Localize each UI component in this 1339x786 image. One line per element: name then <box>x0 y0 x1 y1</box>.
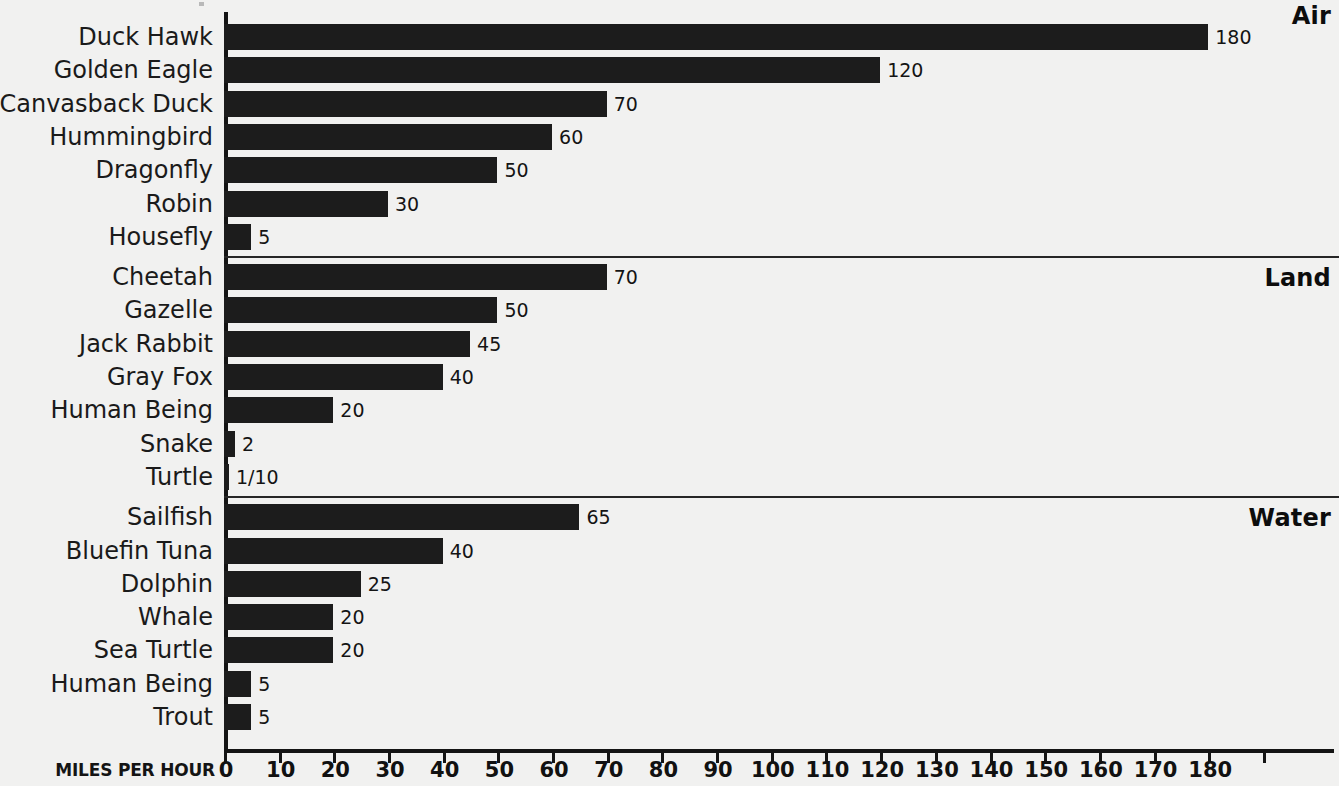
x-axis-tick-label: 100 <box>751 758 795 782</box>
bar-row[interactable]: Hummingbird60 <box>224 122 1339 155</box>
category-label: Whale <box>138 604 213 630</box>
bar[interactable] <box>224 538 443 564</box>
bar-row[interactable]: Turtle1/10 <box>224 462 1339 495</box>
bar[interactable] <box>224 331 470 357</box>
bar-value-label: 2 <box>242 431 254 457</box>
bar[interactable] <box>224 504 579 530</box>
x-axis-caption: MILES PER HOUR <box>55 760 215 780</box>
bar-row[interactable]: Human Being20 <box>224 395 1339 428</box>
category-label: Dragonfly <box>95 157 213 183</box>
bar-value-label: 60 <box>559 124 583 150</box>
category-label: Human Being <box>50 397 213 423</box>
category-label: Turtle <box>146 464 213 490</box>
x-axis-tick-label: 70 <box>594 758 623 782</box>
bar[interactable] <box>224 191 388 217</box>
bar[interactable] <box>224 604 333 630</box>
category-label: Human Being <box>50 671 213 697</box>
bar-value-label: 50 <box>504 157 528 183</box>
bar-row[interactable]: Housefly5 <box>224 222 1339 255</box>
bar-row[interactable]: Dragonfly50 <box>224 155 1339 188</box>
bar-value-label: 5 <box>258 224 270 250</box>
animal-speed-bar-chart: AirDuck Hawk180Golden Eagle120Canvasback… <box>0 0 1339 786</box>
bar[interactable] <box>224 297 497 323</box>
category-label: Bluefin Tuna <box>66 538 213 564</box>
bar-row[interactable]: Cheetah70 <box>224 262 1339 295</box>
bar-value-label: 5 <box>258 671 270 697</box>
bar-row[interactable]: Whale20 <box>224 602 1339 635</box>
bar-row[interactable]: Sea Turtle20 <box>224 635 1339 668</box>
bar[interactable] <box>224 24 1208 50</box>
x-axis-tick-label: 10 <box>266 758 295 782</box>
bar-row[interactable]: Sailfish65 <box>224 502 1339 535</box>
category-label: Sea Turtle <box>94 637 213 663</box>
category-label: Gray Fox <box>107 364 213 390</box>
bar-value-label: 25 <box>368 571 392 597</box>
x-axis-tick-label: 40 <box>430 758 459 782</box>
x-axis-tick-label: 30 <box>375 758 404 782</box>
bar-value-label: 20 <box>340 397 364 423</box>
x-axis-tick-label: 20 <box>321 758 350 782</box>
x-axis-tick-label: 110 <box>806 758 850 782</box>
bar[interactable] <box>224 91 607 117</box>
bar-value-label: 40 <box>450 364 474 390</box>
bar[interactable] <box>224 431 235 457</box>
bar-value-label: 20 <box>340 604 364 630</box>
paper-speck <box>199 2 204 6</box>
x-axis-tick-label: 130 <box>915 758 959 782</box>
bar-value-label: 5 <box>258 704 270 730</box>
bar[interactable] <box>224 704 251 730</box>
bar-row[interactable]: Dolphin25 <box>224 569 1339 602</box>
bar[interactable] <box>224 671 251 697</box>
bar[interactable] <box>224 124 552 150</box>
bar-row[interactable]: Canvasback Duck70 <box>224 89 1339 122</box>
bar-row[interactable]: Jack Rabbit45 <box>224 329 1339 362</box>
bar[interactable] <box>224 157 497 183</box>
category-label: Dolphin <box>121 571 213 597</box>
bar[interactable] <box>224 464 229 490</box>
bar-row[interactable]: Bluefin Tuna40 <box>224 536 1339 569</box>
category-label: Duck Hawk <box>78 24 213 50</box>
bar-value-label: 45 <box>477 331 501 357</box>
x-axis-tick-label: 90 <box>703 758 732 782</box>
bar[interactable] <box>224 397 333 423</box>
x-axis-tick-label: 180 <box>1188 758 1232 782</box>
bar-value-label: 70 <box>614 264 638 290</box>
bar-value-label: 1/10 <box>236 464 279 490</box>
bar[interactable] <box>224 364 443 390</box>
bar-value-label: 65 <box>586 504 610 530</box>
bar[interactable] <box>224 224 251 250</box>
category-label: Snake <box>140 431 213 457</box>
group-separator-rule <box>224 496 1339 498</box>
bar-row[interactable]: Trout5 <box>224 702 1339 735</box>
x-axis-tick-label: 120 <box>860 758 904 782</box>
category-label: Trout <box>153 704 213 730</box>
x-axis-tick-label: 160 <box>1079 758 1123 782</box>
plot-area: AirDuck Hawk180Golden Eagle120Canvasback… <box>224 12 1339 752</box>
category-label: Housefly <box>108 224 213 250</box>
bar-row[interactable]: Human Being5 <box>224 669 1339 702</box>
x-axis-tick-label: 50 <box>485 758 514 782</box>
x-axis-tick-label: 80 <box>649 758 678 782</box>
x-axis-tick-label: 60 <box>539 758 568 782</box>
bar-value-label: 20 <box>340 637 364 663</box>
group-separator-rule <box>224 256 1339 258</box>
bar[interactable] <box>224 57 880 83</box>
bar-row[interactable]: Robin30 <box>224 189 1339 222</box>
x-axis-tick-label: 150 <box>1024 758 1068 782</box>
bar[interactable] <box>224 264 607 290</box>
category-label: Sailfish <box>127 504 213 530</box>
bar-value-label: 120 <box>887 57 923 83</box>
x-axis-tick-label: 0 <box>219 758 234 782</box>
bar-row[interactable]: Golden Eagle120 <box>224 55 1339 88</box>
bar-row[interactable]: Duck Hawk180 <box>224 22 1339 55</box>
x-axis-tick-label: 140 <box>970 758 1014 782</box>
bar-value-label: 30 <box>395 191 419 217</box>
bar[interactable] <box>224 637 333 663</box>
bar-row[interactable]: Gazelle50 <box>224 295 1339 328</box>
bar-value-label: 40 <box>450 538 474 564</box>
bar-row[interactable]: Snake2 <box>224 429 1339 462</box>
bar-value-label: 50 <box>504 297 528 323</box>
x-axis-tick <box>1263 753 1266 763</box>
bar-row[interactable]: Gray Fox40 <box>224 362 1339 395</box>
bar[interactable] <box>224 571 361 597</box>
